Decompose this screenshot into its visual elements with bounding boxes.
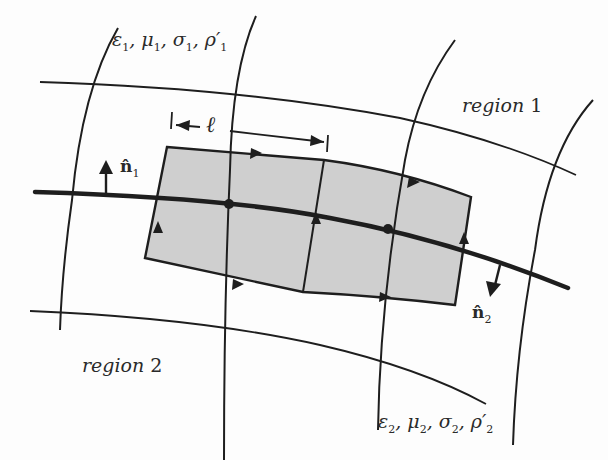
separator: , <box>129 28 135 50</box>
normal1-label: n̂1 <box>120 158 139 179</box>
epsilon-symbol: ε <box>378 410 388 432</box>
separator: , <box>193 28 199 50</box>
epsilon-symbol: ε <box>112 28 122 50</box>
length-label: ℓ <box>206 114 215 136</box>
length-dimension <box>171 112 328 152</box>
mu-symbol: μ <box>407 410 419 432</box>
rho-symbol: ρ′ <box>471 410 486 432</box>
subscript: 2 <box>420 423 427 436</box>
intersection-dot-1 <box>224 199 234 209</box>
separator: , <box>459 410 465 432</box>
grid-curve-1 <box>60 28 118 330</box>
sigma-symbol: σ <box>439 410 452 432</box>
subscript: 2 <box>484 313 491 326</box>
normal-vector-n2 <box>486 265 501 297</box>
region1-parameters: ε1, μ1, σ1, ρ′1 <box>112 30 227 53</box>
region2-label: region 2 <box>82 356 162 375</box>
region-number: 1 <box>530 94 542 116</box>
rho-symbol: ρ′ <box>205 28 220 50</box>
subscript: 1 <box>220 41 227 54</box>
intersection-dot-2 <box>383 224 393 234</box>
region-number: 2 <box>150 354 162 376</box>
subscript: 2 <box>452 423 459 436</box>
normal-vector-n1 <box>99 160 113 194</box>
region1-label: region 1 <box>462 96 542 115</box>
sigma-symbol: σ <box>173 28 186 50</box>
separator: , <box>427 410 433 432</box>
region2-parameters: ε2, μ2, σ2, ρ′2 <box>378 412 493 435</box>
subscript: 1 <box>154 41 161 54</box>
subscript: 1 <box>132 167 139 180</box>
n-hat-symbol: n̂ <box>472 302 484 322</box>
subscript: 1 <box>186 41 193 54</box>
mu-symbol: μ <box>141 28 153 50</box>
arrow-bottom-right-1 <box>232 279 244 290</box>
normal2-label: n̂2 <box>472 304 491 325</box>
region-word: region <box>82 354 144 376</box>
n-hat-symbol: n̂ <box>120 156 132 176</box>
shaded-box <box>145 147 471 305</box>
boundary-diagram: ε1, μ1, σ1, ρ′1 region 1 ℓ n̂1 n̂2 regio… <box>0 0 608 460</box>
separator: , <box>395 410 401 432</box>
separator: , <box>161 28 167 50</box>
region-word: region <box>462 94 524 116</box>
diagram-graphics <box>0 0 608 460</box>
subscript: 2 <box>486 423 493 436</box>
